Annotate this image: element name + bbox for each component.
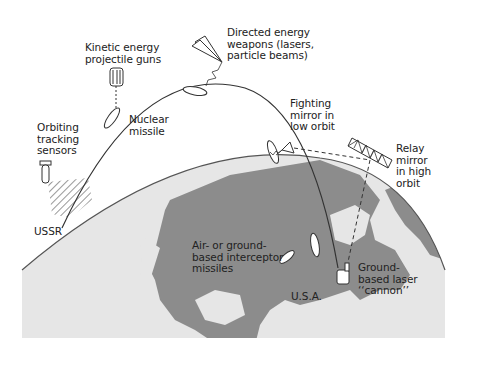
nuclear-missile-icon bbox=[182, 85, 207, 97]
label-nuclear-missile: Nuclear missile bbox=[129, 114, 169, 137]
label-fighting-mirror: Fighting mirror in low orbit bbox=[290, 98, 335, 133]
label-interceptor-missiles: Air- or ground- based interceptor missil… bbox=[192, 240, 283, 275]
label-relay-mirror: Relay mirror in high orbit bbox=[396, 143, 431, 189]
label-laser-cannon: Ground- based laser ‘‘cannon’’ bbox=[358, 262, 418, 297]
tracking-sensor-icon bbox=[40, 161, 51, 183]
nuclear-missile-icon bbox=[102, 106, 122, 130]
label-usa: U.S.A. bbox=[291, 291, 322, 303]
label-orbiting-sensors: Orbiting tracking sensors bbox=[37, 122, 79, 157]
label-kinetic-guns: Kinetic energy projectile guns bbox=[85, 42, 161, 65]
kinetic-gun-icon bbox=[110, 68, 123, 110]
directed-energy-weapon-icon bbox=[192, 36, 222, 86]
label-directed-energy: Directed energy weapons (lasers, particl… bbox=[227, 27, 314, 62]
label-ussr: USSR bbox=[34, 226, 62, 238]
